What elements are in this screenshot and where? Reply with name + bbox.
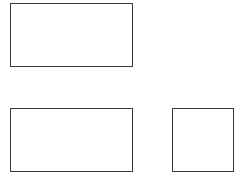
box-top-left: [10, 3, 133, 67]
box-bottom-right: [172, 108, 234, 172]
box-bottom-left: [10, 108, 133, 172]
